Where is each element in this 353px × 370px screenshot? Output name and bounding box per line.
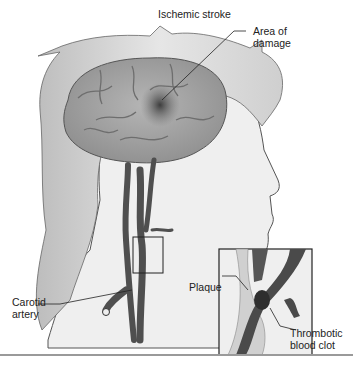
label-line: Area of	[253, 25, 291, 37]
label-line: Thrombotic	[290, 327, 343, 339]
damage-area	[140, 83, 180, 127]
bottom-divider	[0, 354, 353, 356]
blood-clot	[254, 290, 270, 310]
stroke-illustration	[0, 0, 353, 370]
label-area-of-damage: Area of damage	[253, 25, 291, 49]
brain	[64, 58, 227, 163]
label-line: Carotid	[12, 296, 46, 308]
label-line: damage	[253, 37, 291, 49]
label-carotid-artery: Carotid artery	[12, 296, 46, 320]
diagram-title: Ischemic stroke	[158, 8, 231, 20]
label-line: blood clot	[290, 339, 343, 351]
label-plaque: Plaque	[189, 281, 222, 293]
label-line: artery	[12, 308, 46, 320]
label-thrombotic-clot: Thrombotic blood clot	[290, 327, 343, 351]
